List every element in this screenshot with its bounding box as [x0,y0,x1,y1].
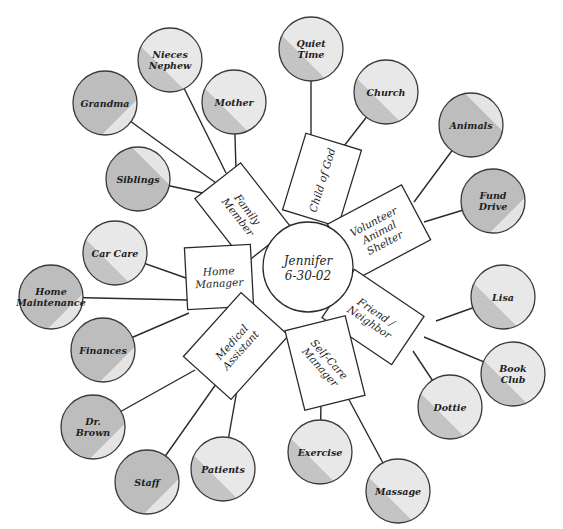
item-circle-grandma[interactable]: Grandma [73,71,137,135]
item-circle-dr-brown[interactable]: Dr.Brown [61,395,125,459]
item-label: Siblings [116,174,160,185]
item-circle-animals[interactable]: Animals [439,93,503,157]
item-circle-home-maintenance[interactable]: HomeMaintenance [15,265,85,329]
item-circle-staff[interactable]: Staff [115,450,179,514]
item-circle-massage[interactable]: Massage [366,459,430,523]
item-circle-car-care[interactable]: Car Care [83,221,147,285]
item-label: Fund [478,190,506,201]
mind-map-diagram: FamilyMemberChild of GodVolunteerAnimalS… [0,0,563,529]
item-label: Grandma [80,98,129,109]
item-circle-fund-drive[interactable]: FundDrive [461,169,525,233]
item-label: Quiet [296,38,326,49]
item-label: Lisa [491,292,514,303]
item-label: Animals [448,120,493,131]
item-label: Mother [213,97,254,108]
item-circle-lisa[interactable]: Lisa [471,265,535,329]
center-name-label: Jennifer [281,254,334,268]
item-label: Exercise [297,447,343,458]
item-label: Staff [134,477,161,488]
item-label: Car Care [92,248,139,259]
center-hub: Jennifer 6-30-02 [263,222,353,312]
item-label: Patients [200,464,245,475]
item-label: Nephew [148,60,192,71]
item-circle-quiet-time[interactable]: QuietTime [279,17,343,81]
item-label: Maintenance [15,297,85,308]
item-label: Finances [78,345,127,356]
item-label: Brown [75,427,111,438]
item-label: Drive [478,201,507,212]
item-label: Time [298,49,325,60]
item-label: Home [34,286,66,297]
item-label: Massage [374,486,421,497]
center-date-label: 6-30-02 [285,269,331,283]
item-circle-nieces-nephew[interactable]: NiecesNephew [138,28,202,92]
item-circle-finances[interactable]: Finances [71,318,135,382]
item-circle-mother[interactable]: Mother [202,70,266,134]
item-label: Nieces [151,49,188,60]
item-label: Book [498,363,527,374]
item-label: Club [501,374,526,385]
item-circle-dottie[interactable]: Dottie [418,375,482,439]
item-circle-siblings[interactable]: Siblings [106,147,170,211]
item-circle-exercise[interactable]: Exercise [288,420,352,484]
item-circle-book-club[interactable]: BookClub [481,342,545,406]
item-circle-patients[interactable]: Patients [191,437,255,501]
item-circle-church[interactable]: Church [354,60,418,124]
item-label: Church [366,87,405,98]
item-label: Dr. [84,416,101,427]
item-label: Dottie [432,402,466,413]
